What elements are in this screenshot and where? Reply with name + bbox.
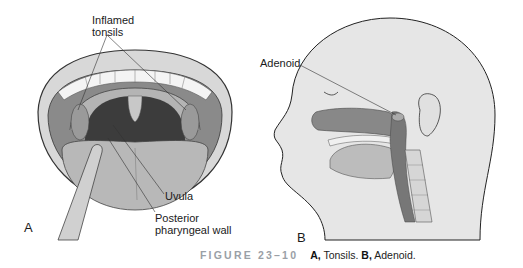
- caption-b-text: Adenoid.: [372, 249, 416, 261]
- panel-letter-b: B: [297, 230, 306, 245]
- label-posterior-line1: Posterior: [155, 212, 231, 224]
- label-inflamed-tonsils-line1: Inflamed: [92, 14, 134, 26]
- label-uvula: Uvula: [165, 190, 193, 202]
- label-adenoid: Adenoid: [260, 57, 300, 69]
- label-inflamed-tonsils-line2: tonsils: [92, 26, 134, 38]
- open-mouth-illustration: [0, 0, 523, 268]
- caption-b-letter: B,: [361, 249, 372, 261]
- figure-number: FIGURE 23–10: [200, 249, 298, 261]
- panel-letter-a: A: [24, 220, 33, 235]
- caption-a-text: Tonsils.: [321, 249, 362, 261]
- figure: Inflamed tonsils Uvula Posterior pharyng…: [0, 0, 523, 268]
- caption-a-letter: A,: [310, 249, 321, 261]
- label-posterior-pharyngeal-wall: Posterior pharyngeal wall: [155, 212, 231, 236]
- label-posterior-line2: pharyngeal wall: [155, 224, 231, 236]
- figure-caption: FIGURE 23–10A, Tonsils. B, Adenoid.: [200, 249, 416, 261]
- label-inflamed-tonsils: Inflamed tonsils: [92, 14, 134, 38]
